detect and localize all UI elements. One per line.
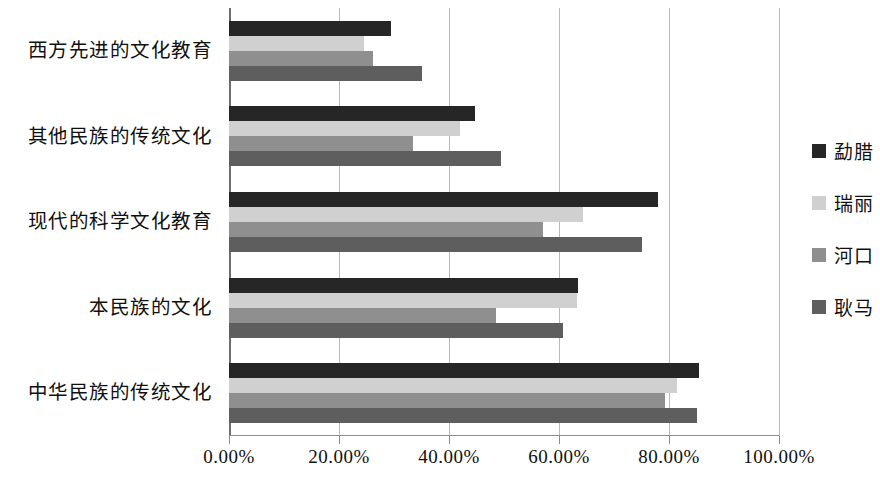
legend-item[interactable]: 瑞丽	[812, 189, 880, 216]
legend-label: 瑞丽	[834, 189, 873, 216]
tick-label: 80.00%	[638, 446, 700, 468]
category-label: 中华民族的传统文化	[0, 382, 222, 403]
category-label: 其他民族的传统文化	[0, 126, 222, 147]
bar-row	[229, 393, 779, 408]
bar[interactable]	[229, 408, 697, 423]
bar-row	[229, 363, 779, 378]
baseline-axis	[229, 435, 779, 436]
bar[interactable]	[229, 308, 496, 323]
bar[interactable]	[229, 136, 413, 151]
bar[interactable]	[229, 378, 677, 393]
bar[interactable]	[229, 323, 563, 338]
legend-swatch-icon	[812, 248, 826, 262]
bar[interactable]	[229, 192, 658, 207]
tick-mark	[449, 436, 450, 444]
legend-item[interactable]: 河口	[812, 241, 880, 268]
bar-group	[229, 359, 779, 427]
bar-row	[229, 207, 779, 222]
bar[interactable]	[229, 21, 391, 36]
bar-row	[229, 136, 779, 151]
tick-mark	[559, 436, 560, 444]
bar[interactable]	[229, 278, 578, 293]
tick-label: 0.00%	[203, 446, 255, 468]
legend-swatch-icon	[812, 144, 826, 158]
bar[interactable]	[229, 51, 373, 66]
bar[interactable]	[229, 207, 583, 222]
bar[interactable]	[229, 222, 543, 237]
bar-group	[229, 17, 779, 85]
bar-row	[229, 36, 779, 51]
bar[interactable]	[229, 151, 501, 166]
bar[interactable]	[229, 66, 422, 81]
bar-row	[229, 66, 779, 81]
legend-swatch-icon	[812, 196, 826, 210]
bar[interactable]	[229, 293, 577, 308]
bar-row	[229, 106, 779, 121]
plot-area	[229, 8, 779, 436]
category-label: 本民族的文化	[0, 297, 222, 318]
bar-row	[229, 378, 779, 393]
bar-group	[229, 188, 779, 256]
bar-row	[229, 237, 779, 252]
category-label: 现代的科学文化教育	[0, 211, 222, 232]
chart-legend: 勐腊瑞丽河口耿马	[812, 137, 880, 320]
bar[interactable]	[229, 36, 364, 51]
bar-row	[229, 222, 779, 237]
bar[interactable]	[229, 363, 699, 378]
legend-label: 河口	[834, 241, 873, 268]
bar-row	[229, 408, 779, 423]
tick-label: 100.00%	[743, 446, 815, 468]
bar-groups	[229, 8, 779, 436]
legend-item[interactable]: 勐腊	[812, 137, 880, 164]
bar-chart: 西方先进的文化教育其他民族的传统文化现代的科学文化教育本民族的文化中华民族的传统…	[0, 0, 880, 477]
gridline	[779, 8, 780, 436]
category-label: 西方先进的文化教育	[0, 40, 222, 61]
bar-group	[229, 102, 779, 170]
bar-row	[229, 51, 779, 66]
bar[interactable]	[229, 121, 460, 136]
bar[interactable]	[229, 393, 665, 408]
bar-row	[229, 21, 779, 36]
bar-row	[229, 323, 779, 338]
bar-row	[229, 151, 779, 166]
bar-row	[229, 278, 779, 293]
bar-row	[229, 293, 779, 308]
legend-swatch-icon	[812, 300, 826, 314]
tick-label: 60.00%	[528, 446, 590, 468]
tick-label: 40.00%	[418, 446, 480, 468]
tick-mark	[779, 436, 780, 444]
tick-label: 20.00%	[308, 446, 370, 468]
bar-row	[229, 192, 779, 207]
bar-group	[229, 274, 779, 342]
tick-mark	[669, 436, 670, 444]
category-axis: 西方先进的文化教育其他民族的传统文化现代的科学文化教育本民族的文化中华民族的传统…	[0, 8, 222, 436]
legend-item[interactable]: 耿马	[812, 293, 880, 320]
tick-mark	[339, 436, 340, 444]
legend-label: 勐腊	[834, 137, 873, 164]
bar-row	[229, 308, 779, 323]
bar-row	[229, 121, 779, 136]
value-axis-tick-labels: 0.00%20.00%40.00%60.00%80.00%100.00%	[229, 440, 789, 470]
bar[interactable]	[229, 106, 475, 121]
tick-mark	[229, 436, 230, 444]
bar[interactable]	[229, 237, 642, 252]
legend-label: 耿马	[834, 293, 873, 320]
